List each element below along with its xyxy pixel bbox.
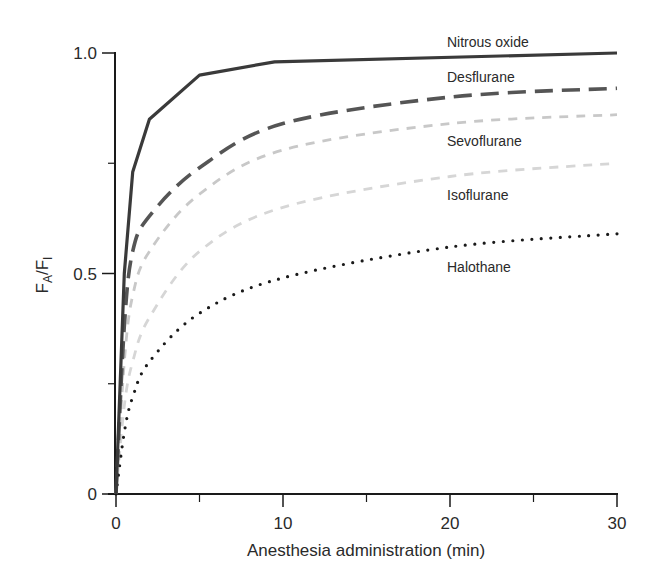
series-line-desflurane [116, 88, 617, 494]
y-axis-title-sub-i: I [41, 257, 55, 260]
y-tick-label: 0.5 [73, 265, 97, 284]
chart: 00.51.0 0102030 Nitrous oxideDesfluraneS… [0, 0, 663, 586]
series-line-sevoflurane [116, 115, 617, 494]
y-axis-title-f: F [33, 283, 52, 293]
series-labels: Nitrous oxideDesfluraneSevofluraneIsoflu… [447, 34, 529, 275]
series-label-desflurane: Desflurane [447, 69, 515, 85]
series-line-nitrous-oxide [116, 53, 617, 494]
x-tick-label: 0 [111, 514, 120, 533]
axes [108, 52, 618, 495]
x-axis-title: Anesthesia administration (min) [247, 541, 485, 560]
y-ticks: 00.51.0 [73, 44, 115, 504]
y-tick-label: 0 [88, 485, 97, 504]
series-label-isoflurane: Isoflurane [447, 187, 509, 203]
y-axis-title-sub-a: A [41, 275, 55, 283]
series-label-nitrous-oxide: Nitrous oxide [447, 34, 529, 50]
series-lines [116, 53, 617, 494]
y-tick-label: 1.0 [73, 44, 97, 63]
series-label-halothane: Halothane [447, 259, 511, 275]
x-ticks: 0102030 [111, 494, 626, 533]
x-tick-label: 30 [608, 514, 627, 533]
x-tick-label: 20 [441, 514, 460, 533]
series-line-halothane [116, 234, 617, 494]
y-axis-title-slash: /F [33, 260, 52, 275]
series-line-isoflurane [116, 163, 617, 494]
svg-text:FA/FI: FA/FI [33, 257, 55, 294]
series-label-sevoflurane: Sevoflurane [447, 133, 522, 149]
x-tick-label: 10 [274, 514, 293, 533]
y-axis-title: FA/FI [33, 257, 55, 294]
